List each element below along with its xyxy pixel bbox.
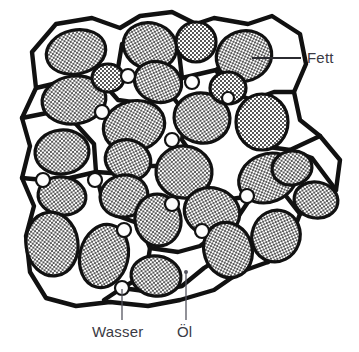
water-droplet [165,133,179,147]
water-droplet [195,224,209,238]
emulsion-structure-diagram: Fett Wasser Öl [0,0,359,352]
water-droplet [165,197,179,211]
water-droplet [185,75,199,89]
fat-globule [92,64,124,92]
label-fett: Fett [307,49,334,66]
figure-root: Fett Wasser Öl [0,0,359,352]
water-droplet [240,189,254,203]
label-oel: Öl [177,323,192,340]
water-droplet [88,173,102,187]
fat-globule [176,22,216,62]
fat-globule [236,94,288,150]
water-droplet [36,173,50,187]
water-droplet [121,69,135,83]
water-droplet [117,223,131,237]
water-droplet [95,105,109,119]
label-wasser: Wasser [92,323,143,340]
water-droplet [222,92,234,104]
